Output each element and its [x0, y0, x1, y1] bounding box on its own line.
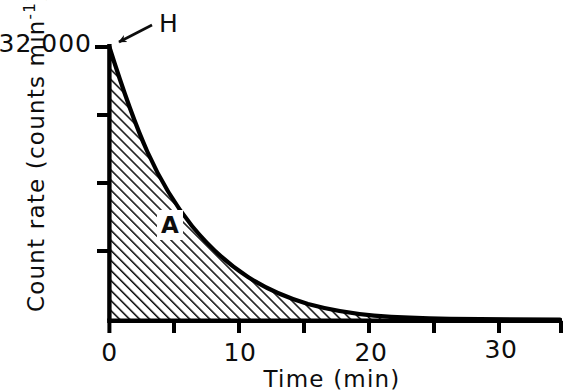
- y-axis-title: Count rate (counts min-1): [21, 0, 49, 312]
- chart-background: [0, 0, 576, 391]
- y-axis-title-main: Count rate (counts min: [23, 19, 49, 312]
- chart-canvas: 32 000 0 10 20 30 Time (min) Count rate …: [0, 0, 576, 391]
- x-tick-label-30: 30: [485, 335, 518, 364]
- y-axis-title-group: Count rate (counts min-1): [21, 0, 49, 312]
- x-tick-label-10: 10: [224, 338, 257, 367]
- decay-curve-figure: 32 000 0 10 20 30 Time (min) Count rate …: [0, 0, 576, 391]
- x-tick-label-20: 20: [355, 338, 388, 367]
- area-label: A: [161, 212, 179, 238]
- y-axis-title-closing-paren: ): [23, 0, 49, 2]
- h-annotation-label: H: [159, 9, 178, 38]
- x-axis-title: Time (min): [263, 366, 401, 391]
- y-axis-title-superscript: -1: [21, 2, 39, 19]
- x-tick-label-0: 0: [101, 338, 117, 367]
